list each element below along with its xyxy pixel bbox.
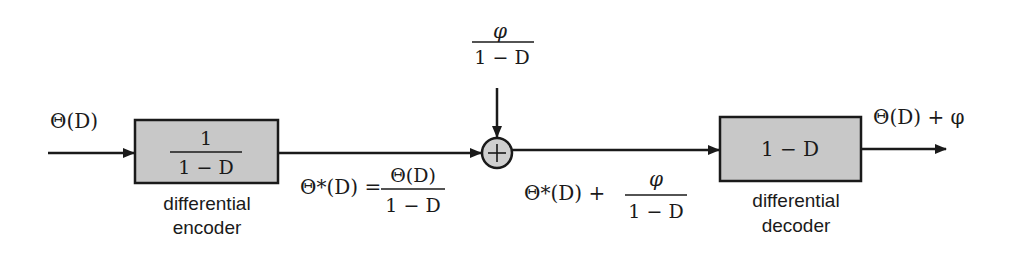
decoder-transfer: 1 − D bbox=[761, 137, 819, 161]
adder-output-expression: Θ*(D) + φ 1 − D bbox=[524, 167, 687, 222]
adder-output-numerator: φ bbox=[649, 167, 663, 191]
encoder-output-lhs: Θ*(D) = bbox=[300, 175, 381, 199]
differential-coding-diagram: Θ(D) 1 1 − D differential encoder Θ*(D) … bbox=[0, 0, 1020, 257]
input-label: Θ(D) bbox=[50, 109, 98, 133]
side-input-denominator: 1 − D bbox=[474, 46, 529, 68]
encoder-output-numerator: Θ(D) bbox=[390, 164, 436, 186]
encoder-numerator: 1 bbox=[200, 127, 212, 149]
decoder-caption-line1: differential bbox=[752, 190, 839, 211]
decoder-block: 1 − D bbox=[720, 117, 861, 181]
diagram-svg: Θ(D) 1 1 − D differential encoder Θ*(D) … bbox=[0, 0, 1020, 257]
encoder-block: 1 1 − D bbox=[135, 120, 278, 183]
decoder-caption-line2: decoder bbox=[762, 215, 831, 236]
encoder-output-denominator: 1 − D bbox=[385, 194, 440, 216]
adder-output-denominator: 1 − D bbox=[628, 200, 683, 222]
encoder-caption-line1: differential bbox=[163, 193, 250, 214]
adder-side-input-expression: φ 1 − D bbox=[472, 19, 534, 68]
output-label: Θ(D) + φ bbox=[873, 105, 965, 129]
adder-output-lhs: Θ*(D) + bbox=[524, 181, 605, 205]
side-input-numerator: φ bbox=[493, 19, 507, 43]
encoder-denominator: 1 − D bbox=[178, 156, 233, 178]
encoder-caption-line2: encoder bbox=[173, 217, 242, 238]
encoder-output-expression: Θ*(D) = Θ(D) 1 − D bbox=[300, 164, 445, 216]
adder-summing-junction bbox=[482, 138, 512, 168]
